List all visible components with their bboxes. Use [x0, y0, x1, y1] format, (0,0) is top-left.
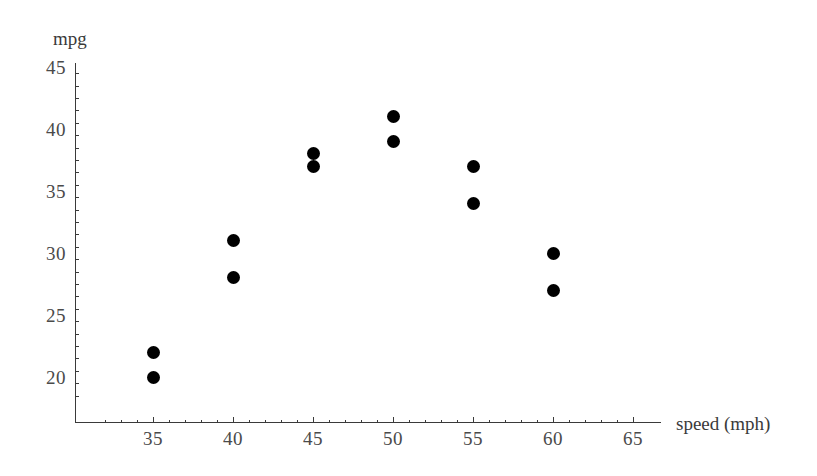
y-tick-label: 35 [46, 182, 66, 201]
x-tick-minor [377, 420, 378, 423]
y-tick-minor [76, 346, 79, 347]
data-point [307, 160, 320, 173]
x-tick-minor [265, 420, 266, 423]
data-point [547, 284, 560, 297]
x-axis-title: speed (mph) [676, 414, 770, 433]
x-tick-minor [585, 420, 586, 423]
x-tick-major [233, 417, 234, 423]
x-tick-minor [201, 420, 202, 423]
x-tick-major [393, 417, 394, 423]
x-tick-minor [457, 420, 458, 423]
x-tick-minor [617, 420, 618, 423]
x-tick-major [553, 417, 554, 423]
y-tick-label: 20 [46, 368, 66, 387]
x-tick-minor [281, 420, 282, 423]
y-tick-minor [76, 172, 79, 173]
y-tick-label: 40 [46, 120, 66, 139]
x-tick-minor [601, 420, 602, 423]
x-tick-label: 50 [383, 429, 403, 448]
x-tick-minor [521, 420, 522, 423]
y-tick-label: 30 [46, 244, 66, 263]
y-tick-minor [76, 321, 79, 322]
data-point [227, 271, 240, 284]
x-tick-label: 40 [223, 429, 243, 448]
x-tick-minor [185, 420, 186, 423]
y-tick-minor [76, 148, 79, 149]
x-axis-line [75, 422, 661, 423]
x-tick-minor [297, 420, 298, 423]
x-tick-minor [105, 420, 106, 423]
y-tick-minor [76, 185, 79, 186]
x-tick-label: 55 [463, 429, 483, 448]
x-tick-label: 45 [303, 429, 323, 448]
x-tick-minor [409, 420, 410, 423]
data-point [387, 110, 400, 123]
x-tick-label: 60 [543, 429, 563, 448]
x-tick-minor [361, 420, 362, 423]
y-tick-minor [76, 272, 79, 273]
y-tick-minor [76, 123, 79, 124]
x-tick-minor [329, 420, 330, 423]
y-tick-minor [76, 358, 79, 359]
x-tick-minor [249, 420, 250, 423]
y-tick-minor [76, 222, 79, 223]
x-tick-minor [121, 420, 122, 423]
data-point [307, 147, 320, 160]
x-tick-minor [169, 420, 170, 423]
x-tick-minor [537, 420, 538, 423]
x-tick-label: 65 [623, 429, 643, 448]
y-axis-line [75, 63, 76, 423]
data-point [387, 135, 400, 148]
data-point [467, 197, 480, 210]
x-tick-minor [425, 420, 426, 423]
x-tick-minor [441, 420, 442, 423]
x-tick-major [633, 417, 634, 423]
y-tick-label: 45 [46, 58, 66, 77]
x-tick-minor [217, 420, 218, 423]
y-tick-minor [76, 197, 79, 198]
y-tick-minor [76, 234, 79, 235]
data-point [547, 247, 560, 260]
x-tick-major [313, 417, 314, 423]
y-tick-minor [76, 86, 79, 87]
x-tick-label: 35 [143, 429, 163, 448]
y-tick-minor [76, 371, 79, 372]
x-tick-minor [505, 420, 506, 423]
y-tick-minor [76, 98, 79, 99]
x-tick-major [473, 417, 474, 423]
x-tick-major [153, 417, 154, 423]
data-point [227, 234, 240, 247]
y-tick-minor [76, 135, 79, 136]
y-tick-minor [76, 284, 79, 285]
y-tick-minor [76, 247, 79, 248]
data-point [147, 371, 160, 384]
y-tick-minor [76, 396, 79, 397]
data-point [147, 346, 160, 359]
x-tick-minor [569, 420, 570, 423]
y-tick-minor [76, 296, 79, 297]
y-tick-minor [76, 259, 79, 260]
x-tick-minor [137, 420, 138, 423]
x-tick-minor [345, 420, 346, 423]
y-tick-minor [76, 210, 79, 211]
y-tick-minor [76, 383, 79, 384]
scatter-plot-figure: 35404550556065 202530354045 mpg speed (m… [0, 0, 817, 476]
y-axis-title: mpg [53, 29, 87, 48]
y-tick-minor [76, 309, 79, 310]
y-tick-minor [76, 73, 79, 74]
data-point [467, 160, 480, 173]
y-tick-minor [76, 334, 79, 335]
x-tick-minor [489, 420, 490, 423]
y-tick-minor [76, 160, 79, 161]
y-tick-minor [76, 110, 79, 111]
y-tick-label: 25 [46, 306, 66, 325]
